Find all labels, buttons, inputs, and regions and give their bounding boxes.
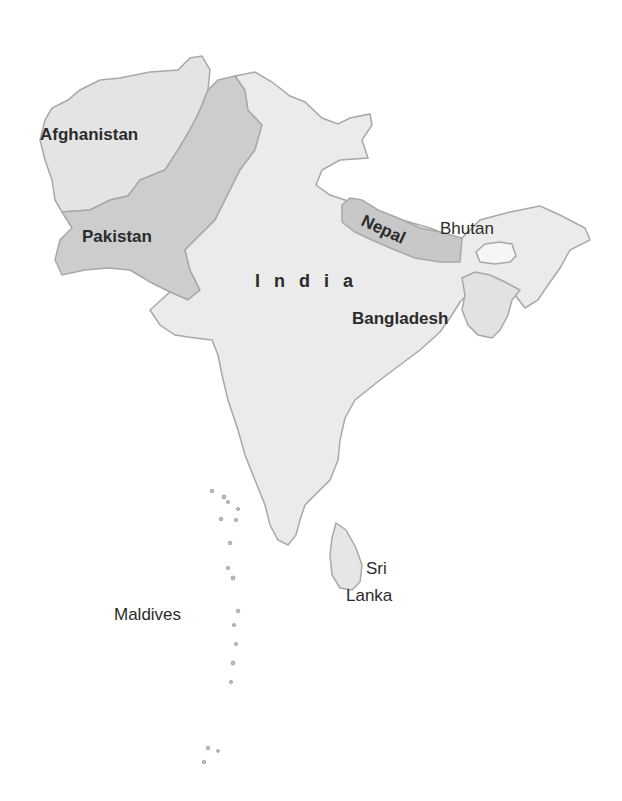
label-afghanistan: Afghanistan [40, 126, 138, 143]
label-maldives: Maldives [114, 606, 181, 623]
country-sri-lanka [330, 523, 362, 590]
country-maldives [202, 489, 240, 764]
label-pakistan: Pakistan [82, 228, 152, 245]
label-bangladesh: Bangladesh [352, 310, 448, 327]
label-india: India [255, 272, 367, 290]
label-bhutan: Bhutan [440, 220, 494, 237]
south-asia-map [0, 0, 622, 801]
label-lanka: Lanka [346, 587, 392, 604]
label-sri: Sri [366, 560, 387, 577]
